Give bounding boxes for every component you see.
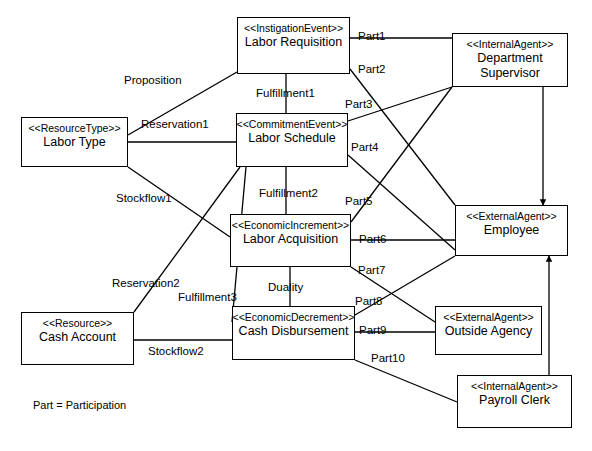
entity-box-cash-account[interactable]: <<Resource>> Cash Account bbox=[21, 312, 134, 365]
relationship-line-part2[interactable] bbox=[350, 69, 455, 205]
relationship-label-duality: Duality bbox=[268, 281, 303, 294]
relationship-line-part10[interactable] bbox=[355, 360, 457, 402]
relationship-label-reservation2: Reservation2 bbox=[112, 277, 180, 290]
diagram-canvas: <<InstigationEvent>> Labor Requisition <… bbox=[0, 0, 592, 451]
entity-stereotype: <<Resource>> bbox=[43, 317, 112, 330]
relationship-label-part8: Part8 bbox=[355, 295, 383, 308]
entity-stereotype: <<InternalAgent>> bbox=[467, 38, 554, 51]
relationship-label-part7: Part7 bbox=[358, 264, 386, 277]
entity-stereotype: <<EconomicDecrement>> bbox=[233, 311, 355, 324]
relationship-label-part1: Part1 bbox=[358, 30, 386, 43]
entity-box-labor-acquisition[interactable]: <<EconomicIncrement>> Labor Acquisition bbox=[230, 214, 351, 267]
entity-stereotype: <<InternalAgent>> bbox=[471, 380, 558, 393]
entity-stereotype: <<InstigationEvent>> bbox=[244, 22, 343, 35]
entity-stereotype: <<ExternalAgent>> bbox=[466, 210, 557, 223]
entity-name: Labor Type bbox=[43, 135, 105, 150]
entity-stereotype: <<ExternalAgent>> bbox=[443, 311, 534, 324]
entity-stereotype: <<ResourceType>> bbox=[28, 122, 120, 135]
relationship-label-part10: Part10 bbox=[371, 352, 405, 365]
entity-box-labor-type[interactable]: <<ResourceType>> Labor Type bbox=[21, 117, 128, 167]
relationship-label-proposition: Proposition bbox=[124, 74, 182, 87]
entity-box-payroll-clerk[interactable]: <<InternalAgent>> Payroll Clerk bbox=[457, 375, 572, 428]
entity-name: Employee bbox=[484, 223, 540, 238]
entity-stereotype: <<CommitmentEvent>> bbox=[237, 118, 348, 131]
entity-name: Payroll Clerk bbox=[479, 393, 550, 408]
legend-note: Part = Participation bbox=[33, 399, 126, 412]
relationship-label-part6: Part6 bbox=[359, 233, 387, 246]
entity-box-cash-disbursement[interactable]: <<EconomicDecrement>> Cash Disbursement bbox=[232, 306, 355, 360]
relationship-label-part9: Part9 bbox=[359, 324, 387, 337]
entity-name: Labor Requisition bbox=[245, 35, 342, 50]
relationship-label-stockflow1: Stockflow1 bbox=[116, 192, 172, 205]
entity-name: Outside Agency bbox=[445, 324, 533, 339]
entity-name: Cash Disbursement bbox=[239, 324, 349, 339]
entity-name: Labor Acquisition bbox=[243, 232, 338, 247]
relationship-label-fulfillment2: Fulfillment2 bbox=[259, 187, 318, 200]
relationship-label-stockflow2: Stockflow2 bbox=[148, 345, 204, 358]
entity-name: Cash Account bbox=[39, 330, 116, 345]
entity-box-outside-agency[interactable]: <<ExternalAgent>> Outside Agency bbox=[435, 306, 542, 355]
relationship-label-reservation1: Reservation1 bbox=[141, 118, 209, 131]
entity-stereotype: <<EconomicIncrement>> bbox=[232, 219, 349, 232]
entity-box-labor-requisition[interactable]: <<InstigationEvent>> Labor Requisition bbox=[237, 17, 350, 74]
relationship-label-part5: Part5 bbox=[345, 195, 373, 208]
relationship-label-part3: Part3 bbox=[345, 98, 373, 111]
entity-name: Department Supervisor bbox=[453, 51, 567, 81]
relationship-label-fulfillment1: Fulfillment1 bbox=[256, 87, 315, 100]
relationship-label-part2: Part2 bbox=[358, 63, 386, 76]
entity-box-labor-schedule[interactable]: <<CommitmentEvent>> Labor Schedule bbox=[236, 113, 348, 167]
relationship-label-part4: Part4 bbox=[351, 141, 379, 154]
entity-box-department-supervisor[interactable]: <<InternalAgent>> Department Supervisor bbox=[452, 33, 568, 87]
relationship-label-fulfillment3: Fulfillment3 bbox=[178, 291, 237, 304]
entity-box-employee[interactable]: <<ExternalAgent>> Employee bbox=[455, 205, 568, 256]
entity-name: Labor Schedule bbox=[248, 131, 336, 146]
